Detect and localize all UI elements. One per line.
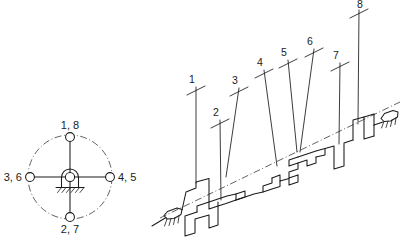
leader-4-line <box>264 70 277 166</box>
leader-5: 5 <box>279 46 297 152</box>
crank-angle-diagram: 1, 8 2, 7 3, 6 4, 5 <box>4 119 137 235</box>
pin-node-right <box>106 173 115 182</box>
throw-label-5: 5 <box>281 46 287 58</box>
leader-6-line <box>300 49 314 152</box>
bearing-left-body <box>164 208 182 219</box>
throw-5-inner-web <box>289 157 298 166</box>
leader-2-line <box>220 120 221 200</box>
figure-canvas: 1, 8 2, 7 3, 6 4, 5 <box>0 0 405 243</box>
crankshaft-isometric-view: 1 2 3 4 5 6 <box>152 0 400 236</box>
crank-label-bottom: 2, 7 <box>61 223 79 235</box>
leader-7: 7 <box>331 49 349 144</box>
throw-label-8: 8 <box>357 0 363 10</box>
throw-1-web <box>182 179 209 213</box>
shaft-stub-left <box>152 218 166 227</box>
throw-label-7: 7 <box>333 49 339 61</box>
crank-throw-profile <box>182 114 383 236</box>
leader-3: 3 <box>226 74 248 177</box>
main-journal-node <box>65 172 74 181</box>
throw-label-3: 3 <box>232 74 238 86</box>
bearing-left <box>152 208 182 226</box>
leader-4: 4 <box>255 56 277 166</box>
leader-5-line <box>288 60 297 152</box>
pin-node-left <box>26 173 35 182</box>
leader-1: 1 <box>187 73 205 183</box>
throw-8-web <box>353 117 374 140</box>
leader-7-line <box>339 63 340 144</box>
throw-label-2: 2 <box>213 106 219 118</box>
ground-hatching <box>58 188 85 193</box>
technical-drawing: 1, 8 2, 7 3, 6 4, 5 <box>0 0 405 243</box>
leader-2: 2 <box>211 106 229 200</box>
throw-label-4: 4 <box>257 56 263 68</box>
throw-5-6-web <box>289 157 316 178</box>
leader-8-line <box>358 10 359 124</box>
bearing-left-hatching <box>165 216 180 226</box>
crank-label-top: 1, 8 <box>61 119 79 131</box>
throw-2-3-connector <box>209 194 236 209</box>
bearing-right <box>381 111 398 129</box>
throw-label-6: 6 <box>307 35 313 47</box>
crank-label-left: 3, 6 <box>4 171 22 183</box>
throw-3-web-run <box>236 178 272 200</box>
crank-label-right: 4, 5 <box>118 171 136 183</box>
throw-label-1: 1 <box>189 73 195 85</box>
leader-3-line <box>226 88 239 177</box>
pin-node-top <box>66 133 75 142</box>
leader-8: 8 <box>350 0 368 124</box>
shaft-stub-right <box>374 122 383 125</box>
leader-6: 6 <box>300 35 323 152</box>
pin-node-bottom <box>66 213 75 222</box>
